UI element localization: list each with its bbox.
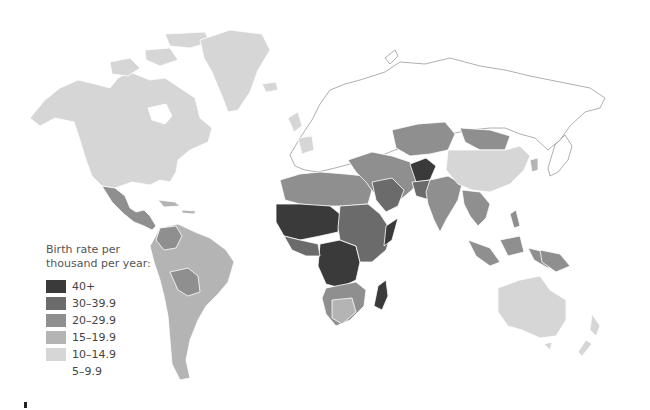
region-iceland bbox=[262, 82, 278, 92]
region-north-africa bbox=[280, 172, 372, 206]
region-caribbean bbox=[158, 200, 196, 214]
region-mongolia bbox=[460, 128, 510, 150]
legend-swatch bbox=[46, 365, 66, 378]
legend-label: 15–19.9 bbox=[72, 331, 116, 344]
region-greenland bbox=[200, 30, 270, 112]
region-south-africa bbox=[332, 298, 356, 324]
region-mexico-central-america bbox=[102, 186, 156, 230]
legend-item-5-9: 5–9.9 bbox=[46, 363, 166, 380]
region-sahel bbox=[276, 204, 340, 240]
region-madagascar bbox=[374, 280, 388, 310]
legend-item-40-plus: 40+ bbox=[46, 278, 166, 295]
legend-title: Birth rate per thousand per year: bbox=[46, 243, 166, 271]
region-tasmania bbox=[544, 342, 552, 350]
legend-item-10-14: 10–14.9 bbox=[46, 346, 166, 363]
legend: Birth rate per thousand per year: 40+ 30… bbox=[46, 243, 166, 380]
region-australia bbox=[498, 276, 566, 338]
region-novaya-zemlya bbox=[385, 50, 398, 64]
legend-item-30-39: 30–39.9 bbox=[46, 295, 166, 312]
region-india bbox=[426, 176, 462, 232]
legend-swatch bbox=[46, 348, 66, 361]
region-ireland-uk bbox=[288, 112, 302, 132]
legend-swatch bbox=[46, 280, 66, 293]
region-north-america bbox=[30, 72, 212, 188]
region-philippines bbox=[510, 210, 520, 228]
legend-label: 40+ bbox=[72, 280, 95, 293]
legend-title-line2: thousand per year: bbox=[46, 257, 166, 271]
region-korea bbox=[530, 158, 538, 172]
region-arctic-islands bbox=[110, 32, 210, 76]
legend-item-20-29: 20–29.9 bbox=[46, 312, 166, 329]
region-central-africa bbox=[318, 240, 360, 288]
legend-swatch bbox=[46, 297, 66, 310]
legend-swatch bbox=[46, 331, 66, 344]
region-horn-of-africa bbox=[384, 218, 398, 246]
legend-title-line1: Birth rate per bbox=[46, 243, 166, 257]
legend-label: 5–9.9 bbox=[72, 365, 102, 378]
legend-swatch bbox=[46, 314, 66, 327]
region-papua bbox=[540, 250, 570, 272]
legend-label: 30–39.9 bbox=[72, 297, 116, 310]
region-southeast-asia bbox=[462, 190, 490, 226]
legend-label: 20–29.9 bbox=[72, 314, 116, 327]
legend-item-15-19: 15–19.9 bbox=[46, 329, 166, 346]
corner-mark bbox=[24, 402, 27, 408]
legend-label: 10–14.9 bbox=[72, 348, 116, 361]
region-new-zealand bbox=[578, 314, 600, 356]
